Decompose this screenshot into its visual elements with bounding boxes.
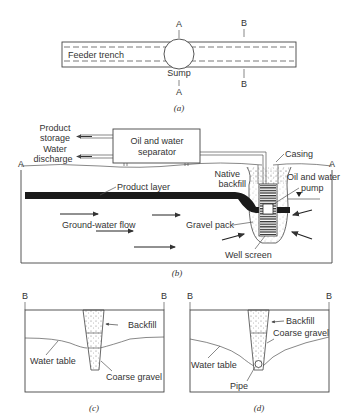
well-screen-label: Well screen [225,250,272,260]
section-b-left-c: B [22,291,28,301]
panel-c-section-view: B B Backfill Water table Coarse gravel (… [22,291,167,413]
backfill-label-d: Backfill [286,316,315,326]
gravel-pack-label: Gravel pack [186,220,235,230]
section-b-right-d: B [326,291,332,301]
feeder-trench-label: Feeder trench [68,50,124,60]
panel-b-section-view: A A Oil and water separator Product stor… [18,123,340,278]
separator-label-2: separator [138,147,176,157]
section-a-left: A [18,159,24,169]
oil-water-separator [113,129,200,163]
sump-label: Sump [167,68,191,78]
water-table-label-c: Water table [30,356,76,366]
section-a-right: A [329,159,335,169]
product-layer-label: Product layer [117,182,170,192]
coarse-gravel-label-d: Coarse gravel [273,328,329,338]
oil-water-pump [263,204,273,214]
caption-d: (d) [254,403,265,413]
caption-c: (c) [89,403,99,413]
caption-a: (a) [174,103,185,113]
section-b-top: B [241,18,247,28]
product-recovery-diagram: Feeder trench Sump A A B B (a) A A Oil a… [0,0,351,420]
section-b-left-d: B [187,291,193,301]
backfill-trench-c [83,310,104,370]
pipe [255,361,262,368]
section-b-right-c: B [161,291,167,301]
casing-label: Casing [285,149,313,159]
panel-a-plan-view: Feeder trench Sump A A B B (a) [62,18,296,113]
pump-label-1: Oil and water [287,172,340,182]
section-b-bottom: B [241,79,247,89]
section-a-bottom: A [176,87,182,97]
caption-b: (b) [172,268,183,278]
pump-label-2: pump [301,183,324,193]
water-table-label-d: Water table [191,360,237,370]
backfill-label-c: Backfill [128,320,157,330]
water-discharge-label-1: Water [43,144,67,154]
panel-d-section-view: B B Backfill Coarse gravel Water table P… [187,291,332,413]
groundwater-flow-label: Ground-water flow [62,220,136,230]
native-backfill-label-1: Native [214,169,240,179]
separator-label-1: Oil and water [130,136,183,146]
native-backfill-label-2: backfill [218,179,246,189]
product-storage-label-2: storage [40,133,70,143]
section-a-top: A [176,19,182,29]
product-storage-label-1: Product [39,123,71,133]
water-discharge-label-2: discharge [33,154,72,164]
sump [164,39,194,69]
coarse-gravel-label-c: Coarse gravel [106,372,162,382]
pipe-label: Pipe [230,381,248,391]
